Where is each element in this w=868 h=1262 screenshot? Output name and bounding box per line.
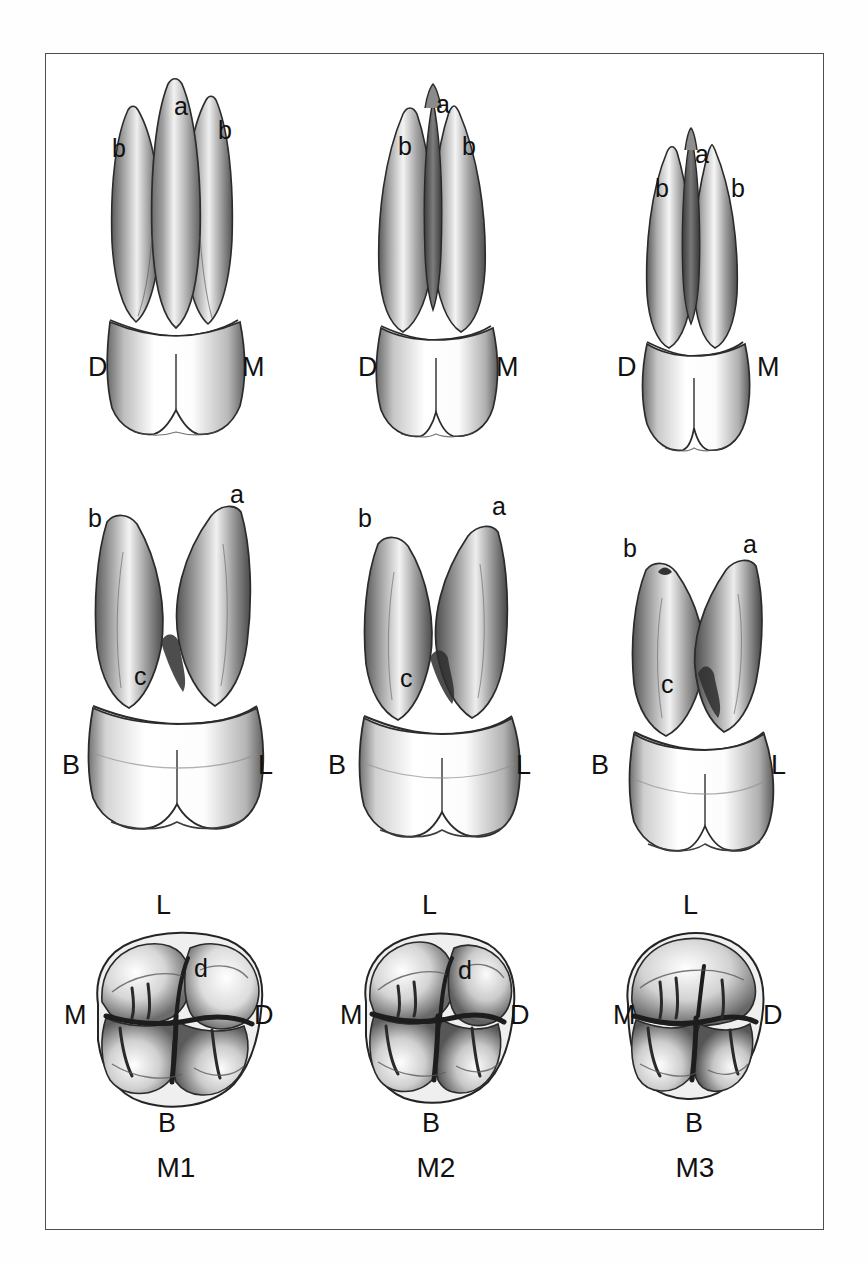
orientation-label-buccal: B	[685, 1110, 703, 1137]
orientation-label-distal: D	[254, 1002, 274, 1029]
orientation-label-buccal: B	[591, 752, 609, 779]
panel-m3-buccolingual: b a c B L	[565, 474, 825, 874]
orientation-label-lingual: L	[156, 892, 171, 919]
orientation-label-distal: D	[88, 354, 108, 381]
panel-m2-occlusal: d L M D B	[306, 874, 566, 1164]
cusp-label-b: b	[88, 506, 102, 531]
cusp-label-a: a	[492, 494, 506, 519]
tooth-illustration-m1-buccolingual	[46, 474, 306, 874]
orientation-label-mesial: M	[757, 354, 780, 381]
cusp-label-a: a	[743, 532, 757, 557]
figure-root: a b b D M	[0, 0, 868, 1262]
cusp-label-a: a	[695, 142, 709, 167]
panel-m1-buccolingual: b a c B L	[46, 474, 306, 874]
orientation-label-buccal: B	[328, 752, 346, 779]
cusp-label-d: d	[458, 958, 472, 983]
cusp-label-b-mesial: b	[218, 118, 232, 143]
column-caption-m1: M1	[46, 1152, 306, 1184]
tooth-drawing	[341, 64, 531, 444]
orientation-label-distal: D	[358, 354, 378, 381]
orientation-label-mesial: M	[64, 1002, 87, 1029]
orientation-label-distal: D	[510, 1002, 530, 1029]
row-mesiodistal-views: a b b D M	[46, 64, 825, 484]
panel-m3-proximal: a b b D M	[565, 64, 825, 484]
tooth-drawing	[76, 918, 276, 1128]
tooth-illustration-m3-buccolingual	[565, 474, 825, 874]
orientation-label-mesial: M	[613, 1002, 636, 1029]
tooth-illustration-m2-proximal	[306, 64, 566, 484]
orientation-label-mesial: M	[242, 354, 265, 381]
tooth-illustration-m2-buccolingual	[306, 474, 566, 874]
cusp-label-b-distal: b	[398, 134, 412, 159]
cusp-label-c: c	[661, 672, 674, 697]
cusp-label-d: d	[194, 956, 208, 981]
panel-m1-occlusal: d L M D B	[46, 874, 306, 1164]
panel-m2-proximal: a b b D M	[306, 64, 566, 484]
tooth-illustration-m3-proximal	[565, 64, 825, 484]
cusp-label-a: a	[230, 482, 244, 507]
panel-m2-buccolingual: b a c B L	[306, 474, 566, 874]
orientation-label-lingual: L	[516, 752, 531, 779]
orientation-label-buccal: B	[422, 1110, 440, 1137]
cusp-label-a: a	[436, 92, 450, 117]
cusp-label-c: c	[134, 664, 147, 689]
cusp-label-b-distal: b	[112, 136, 126, 161]
tooth-drawing	[600, 532, 790, 862]
tooth-drawing	[612, 918, 778, 1128]
orientation-label-distal: D	[617, 354, 637, 381]
cusp-label-b-mesial: b	[731, 176, 745, 201]
row-occlusal-views: d L M D B	[46, 874, 825, 1164]
tooth-drawing	[71, 492, 281, 842]
orientation-label-buccal: B	[62, 752, 80, 779]
plate-frame: a b b D M	[45, 53, 824, 1230]
row-buccolingual-views: b a c B L	[46, 474, 825, 874]
orientation-label-lingual: L	[422, 892, 437, 919]
tooth-drawing	[336, 500, 536, 850]
orientation-label-distal: D	[763, 1002, 783, 1029]
row-column-captions: M1 M2 M3	[46, 1152, 825, 1222]
orientation-label-lingual: L	[683, 892, 698, 919]
orientation-label-mesial: M	[496, 354, 519, 381]
tooth-drawing	[76, 64, 276, 444]
panel-m1-proximal: a b b D M	[46, 64, 306, 484]
panel-m3-occlusal: L M D B	[565, 874, 825, 1164]
orientation-label-mesial: M	[340, 1002, 363, 1029]
orientation-label-lingual: L	[258, 752, 273, 779]
cusp-label-b: b	[623, 536, 637, 561]
orientation-label-buccal: B	[158, 1110, 176, 1137]
tooth-illustration-m1-proximal	[46, 64, 306, 484]
cusp-label-b-mesial: b	[462, 134, 476, 159]
cusp-label-a: a	[174, 94, 188, 119]
cusp-label-b-distal: b	[655, 176, 669, 201]
cusp-label-b: b	[358, 506, 372, 531]
cusp-label-c: c	[400, 666, 413, 691]
column-caption-m2: M2	[306, 1152, 566, 1184]
column-caption-m3: M3	[565, 1152, 825, 1184]
tooth-drawing	[346, 918, 526, 1128]
orientation-label-lingual: L	[771, 752, 786, 779]
